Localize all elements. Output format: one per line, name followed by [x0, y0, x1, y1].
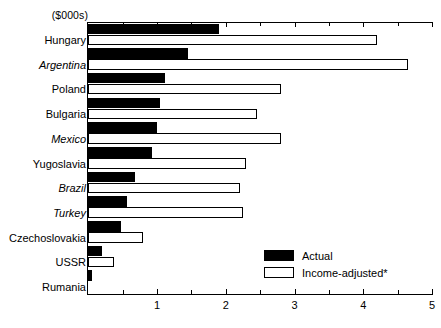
axis-tick-bot-4 [363, 289, 364, 294]
bar-actual-hungary [88, 24, 219, 35]
category-label-ussr: USSR [0, 257, 86, 268]
axis-tick-label-3: 3 [291, 299, 297, 311]
axis-minor-tick-top-3.5 [329, 22, 330, 26]
bar-income-adjusted-argentina [88, 59, 408, 70]
bar-income-adjusted-mexico [88, 133, 281, 144]
axis-minor-tick-bot-1.5 [191, 290, 192, 294]
bar-actual-poland [88, 73, 165, 84]
category-label-brazil: Brazil [0, 183, 86, 194]
axis-tick-bot-2 [226, 289, 227, 294]
category-label-poland: Poland [0, 84, 86, 95]
axis-tick-bot-1 [157, 289, 158, 294]
axis-minor-tick-bot-2.5 [260, 290, 261, 294]
axis-tick-bot-3 [295, 289, 296, 294]
bar-income-adjusted-czechoslovakia [88, 232, 143, 243]
legend: Actual Income-adjusted* [264, 249, 388, 283]
axis-tick-top-5 [432, 22, 433, 27]
axis-minor-tick-bot-0.5 [123, 290, 124, 294]
bar-actual-bulgaria [88, 98, 160, 109]
category-label-argentina: Argentina [0, 60, 86, 71]
legend-swatch-actual [264, 250, 294, 261]
bar-actual-brazil [88, 172, 135, 183]
axis-tick-label-1: 1 [154, 299, 160, 311]
bar-actual-rumania [88, 270, 91, 281]
legend-item-income-adjusted: Income-adjusted* [264, 266, 388, 279]
bar-actual-mexico [88, 122, 157, 133]
axis-tick-label-2: 2 [223, 299, 229, 311]
unit-label: ($000s) [0, 9, 88, 21]
axis-tick-top-2 [226, 22, 227, 27]
legend-swatch-income-adjusted [264, 267, 294, 278]
bar-actual-argentina [88, 48, 188, 59]
category-label-mexico: Mexico [0, 134, 86, 145]
axis-tick-top-4 [363, 22, 364, 27]
bar-actual-ussr [88, 246, 102, 257]
category-label-turkey: Turkey [0, 208, 86, 219]
category-label-bulgaria: Bulgaria [0, 109, 86, 120]
category-label-rumania: Rumania [0, 282, 86, 293]
bar-actual-czechoslovakia [88, 221, 120, 232]
axis-tick-top-3 [295, 22, 296, 27]
bar-income-adjusted-turkey [88, 207, 243, 218]
bar-actual-yugoslavia [88, 147, 152, 158]
category-label-czechoslovakia: Czechoslovakia [0, 233, 86, 244]
legend-label-income-adjusted: Income-adjusted* [302, 267, 388, 279]
axis-minor-tick-top-4.5 [398, 22, 399, 26]
bar-income-adjusted-bulgaria [88, 109, 256, 120]
axis-minor-tick-bot-3.5 [329, 290, 330, 294]
bar-income-adjusted-ussr [88, 257, 113, 268]
category-label-hungary: Hungary [0, 35, 86, 46]
axis-tick-label-4: 4 [360, 299, 366, 311]
bar-income-adjusted-yugoslavia [88, 158, 246, 169]
axis-tick-label-5: 5 [429, 299, 435, 311]
axis-minor-tick-top-2.5 [260, 22, 261, 26]
category-label-yugoslavia: Yugoslavia [0, 159, 86, 170]
bar-income-adjusted-brazil [88, 183, 239, 194]
axis-tick-bot-5 [432, 289, 433, 294]
legend-item-actual: Actual [264, 249, 388, 262]
legend-label-actual: Actual [302, 250, 333, 262]
bar-actual-turkey [88, 196, 127, 207]
axis-minor-tick-bot-4.5 [398, 290, 399, 294]
bar-income-adjusted-poland [88, 84, 281, 95]
bar-income-adjusted-hungary [88, 35, 377, 46]
chart-container: ($000s) 12345 HungaryArgentinaPolandBulg… [0, 0, 441, 328]
